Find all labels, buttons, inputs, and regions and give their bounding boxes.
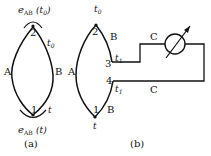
node-4-label: 4 (106, 75, 112, 86)
figure-a: e AB (t0) 2 t0 A B 1 t e AB (t) (a) (3, 4, 62, 149)
galvanometer-icon (165, 26, 190, 58)
caption-b: (b) (130, 138, 144, 149)
temp-t-label: t (93, 121, 97, 131)
node-3-label: 3 (105, 58, 111, 69)
emf-bottom-arg: (t) (36, 125, 47, 135)
node-1-label: 1 (31, 104, 37, 115)
junction-1 (93, 115, 96, 118)
wire-c-top-label: C (150, 31, 158, 42)
caption-a: (a) (24, 138, 38, 149)
figure-b: t0 2 B A 3 t1 4 t1 C C 1 B t (b) (67, 4, 204, 149)
emf-bottom-sub: AB (23, 129, 33, 136)
node-1-label-b: 1 (93, 104, 99, 115)
wire-b-lower-label: B (107, 104, 114, 115)
wire-b-label: B (55, 66, 62, 77)
wire-c-bottom-label: C (150, 84, 158, 95)
wire-a-left (12, 27, 33, 115)
node-2-label-b: 2 (92, 26, 98, 37)
temp-top-label: t0 (47, 38, 55, 49)
wire-b-upper-label: B (110, 31, 117, 42)
temp-bottom-label: t (48, 105, 52, 115)
emf-top-arg: (t0) (36, 5, 51, 16)
temp-4-label: t1 (115, 84, 122, 95)
wire-a-label-b: A (67, 66, 76, 77)
emf-top-sub: AB (23, 9, 33, 16)
wire-a-label: A (3, 66, 12, 77)
temp-t0-label: t0 (94, 4, 102, 15)
node-2-label: 2 (30, 27, 36, 38)
temp-3-label: t1 (115, 53, 122, 64)
thermocouple-diagram: e AB (t0) 2 t0 A B 1 t e AB (t) (a) t0 2… (0, 0, 211, 156)
